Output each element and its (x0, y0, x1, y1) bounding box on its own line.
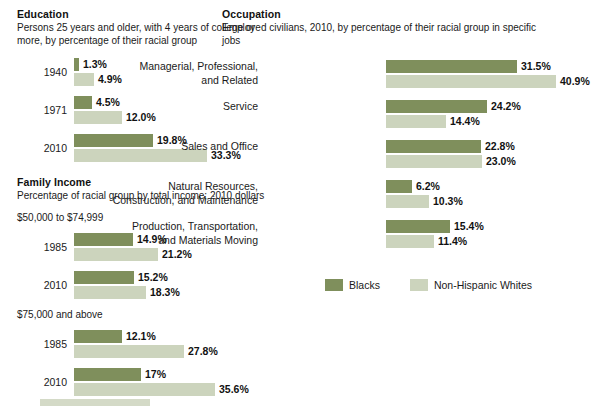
bar-fill-whites (74, 286, 146, 299)
bar-value-whites: 18.3% (150, 286, 180, 299)
row-category-label: Production, Transportation, and Material… (28, 220, 258, 247)
bar-value-blacks: 12.1% (126, 330, 156, 343)
bar-value-whites: 14.4% (450, 115, 480, 128)
bar-whites: 23.0% (386, 155, 516, 168)
income-bracket-2-label: $75,000 and above (17, 309, 267, 321)
bar-fill-blacks (74, 330, 122, 343)
bar-whites: 10.3% (386, 195, 463, 208)
bar-value-blacks: 22.8% (485, 140, 515, 153)
row-category-label: Managerial, Professional, and Related (28, 60, 258, 87)
bar-fill-whites (74, 383, 215, 396)
legend-item-blacks: Blacks (325, 279, 380, 291)
bar-value-blacks: 6.2% (416, 180, 440, 193)
row-category-label: 2010 (17, 279, 67, 292)
row-category-line-2: Construction, and Maintenance (28, 194, 258, 208)
bar-fill-whites (386, 195, 429, 208)
bar-pair: 22.8% 23.0% (386, 140, 516, 168)
bar-fill-whites (386, 155, 482, 168)
row-category-label: 2010 (17, 376, 67, 389)
bar-fill-blacks (386, 140, 481, 153)
bar-pair: 24.2% 14.4% (386, 100, 521, 128)
occupation-chart: Managerial, Professional, and Related 31… (222, 60, 595, 250)
bar-blacks: 31.5% (386, 60, 590, 73)
bar-blacks: 12.1% (74, 330, 218, 343)
row-category-label: Sales and Office (28, 140, 258, 154)
bar-blacks: 15.4% (386, 220, 484, 233)
row-category-line-1: Production, Transportation, (28, 220, 258, 234)
table-row: 1985 12.1% 27.8% (17, 330, 267, 360)
bar-value-whites: 40.9% (560, 75, 590, 88)
table-row: Service 24.2% 14.4% (222, 100, 595, 130)
bar-value-blacks: 31.5% (521, 60, 551, 73)
table-row: 2010 15.2% 18.3% (17, 271, 267, 301)
bar-value-whites: 23.0% (486, 155, 516, 168)
row-category-line-1: Managerial, Professional, (28, 60, 258, 74)
bar-fill-blacks (74, 368, 141, 381)
table-row: Production, Transportation, and Material… (222, 220, 595, 250)
bar-whites: 14.4% (386, 115, 521, 128)
bar-fill-whites (386, 115, 446, 128)
bar-pair: 17% 35.6% (74, 368, 249, 396)
table-row: Sales and Office 22.8% 23.0% (222, 140, 595, 170)
bar-whites: 35.6% (74, 383, 249, 396)
bar-blacks: 24.2% (386, 100, 521, 113)
row-category-line-1: Natural Resources, (28, 180, 258, 194)
legend-swatch-whites (410, 279, 428, 291)
row-category-label: Natural Resources, Construction, and Mai… (28, 180, 258, 207)
legend-label-blacks: Blacks (349, 279, 380, 291)
family-income-chart-bracket-2: 1985 12.1% 27.8% 2010 17% (17, 330, 267, 398)
bar-whites: 18.3% (74, 286, 180, 299)
bar-fill-blacks (386, 220, 450, 233)
bar-value-blacks: 15.4% (454, 220, 484, 233)
occupation-title: Occupation (222, 8, 595, 21)
legend-item-whites: Non-Hispanic Whites (410, 279, 532, 291)
bar-blacks: 22.8% (386, 140, 516, 153)
bar-value-whites: 35.6% (219, 383, 249, 396)
bar-fill-blacks (386, 100, 487, 113)
bar-fill-blacks (386, 60, 517, 73)
bar-pair: 12.1% 27.8% (74, 330, 218, 358)
table-row: Managerial, Professional, and Related 31… (222, 60, 595, 90)
bar-whites: 27.8% (74, 345, 218, 358)
legend-label-whites: Non-Hispanic Whites (434, 279, 532, 291)
bar-pair: 15.4% 11.4% (386, 220, 484, 248)
bar-pair: 31.5% 40.9% (386, 60, 590, 88)
row-category-line-2: and Materials Moving (28, 234, 258, 248)
bar-fill-whites (74, 345, 184, 358)
row-category-label: Service (28, 100, 258, 114)
bar-value-blacks: 24.2% (491, 100, 521, 113)
bar-fill-blacks (386, 180, 412, 193)
bar-pair: 6.2% 10.3% (386, 180, 463, 208)
row-category-label: 1985 (17, 338, 67, 351)
bar-blacks: 17% (74, 368, 249, 381)
bar-value-whites: 10.3% (433, 195, 463, 208)
row-category-line-2: and Related (28, 74, 258, 88)
bar-value-blacks: 17% (145, 368, 166, 381)
bar-value-blacks: 15.2% (138, 271, 168, 284)
bar-whites: 11.4% (386, 235, 484, 248)
bar-fill-blacks (74, 271, 134, 284)
bar-whites: 21.2% (74, 248, 192, 261)
bar-value-whites: 21.2% (162, 248, 192, 261)
bar-fill-whites (386, 235, 434, 248)
bar-value-whites: 27.8% (188, 345, 218, 358)
occupation-section: Occupation Employed civilians, 2010, by … (222, 8, 595, 260)
occupation-subtitle: Employed civilians, 2010, by percentage … (222, 22, 557, 47)
row-category-line-1: Service (28, 100, 258, 114)
legend-swatch-blacks (325, 279, 343, 291)
table-row: 2010 17% 35.6% (17, 368, 267, 398)
table-row: Natural Resources, Construction, and Mai… (222, 180, 595, 210)
bar-blacks: 6.2% (386, 180, 463, 193)
chart-legend: Blacks Non-Hispanic Whites (325, 279, 532, 291)
row-category-line-1: Sales and Office (28, 140, 258, 154)
bar-fill-whites (386, 75, 556, 88)
bar-blacks: 15.2% (74, 271, 180, 284)
bar-fill-whites (74, 248, 158, 261)
bar-value-whites: 11.4% (438, 235, 467, 248)
clipped-bar-artifact (40, 399, 150, 406)
bar-whites: 40.9% (386, 75, 590, 88)
bar-pair: 15.2% 18.3% (74, 271, 180, 299)
